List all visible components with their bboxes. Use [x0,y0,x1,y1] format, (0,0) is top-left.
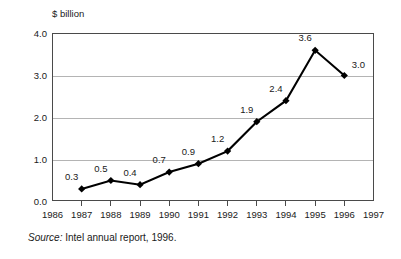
data-point-marker [195,160,202,167]
source-note: Source: Intel annual report, 1996. [28,232,176,244]
source-text: Intel annual report, 1996. [62,232,176,243]
data-point-marker [166,169,173,176]
data-point-marker [107,177,114,184]
data-point-label: 1.2 [201,133,235,144]
data-point-marker [136,181,143,188]
data-point-label: 3.0 [341,59,375,70]
data-series-layer [0,0,401,259]
data-point-label: 1.9 [230,104,264,115]
source-label: Source: [28,232,62,243]
data-point-label: 3.6 [288,32,322,43]
chart-figure: $ billion 0.01.02.03.04.0 19861987198819… [0,0,401,259]
data-point-marker [78,185,85,192]
data-point-label: 0.4 [113,167,147,178]
data-point-label: 0.9 [171,146,205,157]
data-point-label: 2.4 [259,83,293,94]
